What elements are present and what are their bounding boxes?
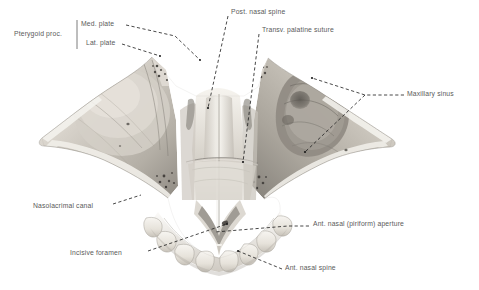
label-lat-plate: Lat. plate — [86, 40, 115, 47]
label-post-nasal-spine: Post. nasal spine — [231, 9, 285, 16]
label-nasolacrimal-canal: Nasolacrimal canal — [33, 203, 93, 210]
specimen-illustration — [0, 0, 479, 290]
anatomy-figure: Pterygoid proc. Med. plate Lat. plate Po… — [0, 0, 479, 290]
right-maxilla-wing — [244, 53, 395, 205]
label-ant-nasal-aperture: Ant. nasal (piriform) aperture — [313, 221, 404, 228]
label-maxillary-sinus: Maxillary sinus — [407, 91, 454, 98]
label-transv-palatine-suture: Transv. palatine suture — [262, 27, 334, 34]
hard-palate-and-vomer — [180, 88, 258, 256]
label-med-plate: Med. plate — [81, 21, 114, 28]
label-incisive-foramen: Incisive foramen — [70, 250, 122, 257]
label-pterygoid-proc: Pterygoid proc. — [14, 31, 62, 38]
left-maxilla-wing — [39, 52, 178, 205]
label-ant-nasal-spine: Ant. nasal spine — [285, 265, 336, 272]
